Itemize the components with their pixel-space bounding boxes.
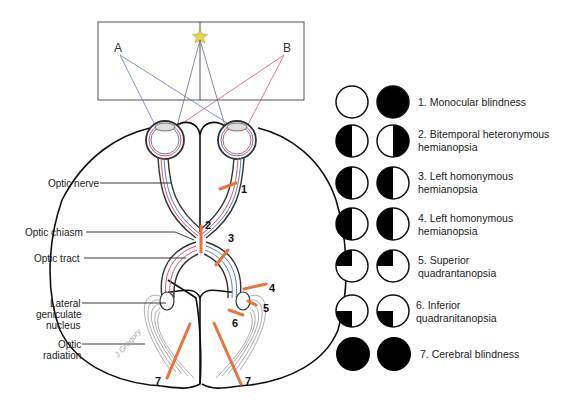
legend-label-6a: 6. Inferior [416, 299, 461, 311]
right-field-left-half [377, 167, 393, 199]
legend-label-5b: quadrantanopsia [418, 267, 496, 279]
legend-row-2: 2. Bitemporal heteronymous hemianopsia [336, 125, 549, 157]
label-optic-radiation-1: Optic [58, 339, 81, 350]
lesion-6 [229, 310, 243, 315]
label-optic-nerve: Optic nerve [48, 178, 100, 189]
left-field-left-half [336, 208, 352, 240]
label-lgn-2: geniculate [36, 309, 82, 320]
lesion-number-4: 4 [269, 282, 276, 294]
lesion-number-5: 5 [263, 302, 269, 314]
legend-label-2a: 2. Bitemporal heteronymous [418, 128, 549, 140]
lesion-4 [244, 284, 266, 289]
right-eye [218, 121, 256, 159]
legend-row-6: 6. Inferior quadranitanopsia [336, 295, 497, 327]
artist-signature: J Gregory [112, 326, 144, 360]
right-field-full [377, 337, 411, 371]
visual-field: A B [98, 22, 304, 160]
legend-label-5a: 5. Superior [418, 254, 470, 266]
visual-pathway-diagram: A B [0, 0, 569, 412]
lesion-number-3: 3 [228, 232, 234, 244]
lesion-number-7-left: 7 [155, 375, 161, 387]
left-field-left-half [336, 167, 352, 199]
legend-label-4b: hemianopsia [418, 225, 478, 237]
label-optic-radiation-2: radiation [43, 350, 81, 361]
legend-row-1: 1. Monocular blindness [336, 86, 526, 118]
left-field-clear [336, 86, 368, 118]
occipital-midline [168, 290, 232, 298]
point-a-label: A [114, 41, 122, 55]
lesion-number-2: 2 [205, 219, 211, 231]
right-field-lower-left-quadrant [377, 311, 393, 327]
brain-outline [50, 122, 346, 388]
left-field-upper-left-quadrant [336, 250, 352, 266]
left-lgn [160, 292, 174, 310]
legend: 1. Monocular blindness 2. Bitemporal het… [336, 86, 549, 371]
left-field-left-half [336, 125, 352, 157]
lesion-number-7-right: 7 [245, 375, 251, 387]
legend-label-4a: 4. Left homonymous [418, 212, 513, 224]
legend-label-1: 1. Monocular blindness [418, 96, 526, 108]
left-eye [146, 121, 184, 159]
legend-row-3: 3. Left homonymous hemianopsia [336, 167, 513, 199]
legend-label-3a: 3. Left homonymous [418, 170, 513, 182]
right-field-upper-left-quadrant [377, 250, 393, 266]
lesion-7b [214, 323, 241, 384]
legend-row-7: 7. Cerebral blindness [336, 337, 519, 371]
left-field-lower-left-quadrant [336, 311, 352, 327]
legend-row-5: 5. Superior quadrantanopsia [336, 250, 496, 282]
right-field-left-half [377, 208, 393, 240]
label-lgn-3: nucleus [46, 320, 80, 331]
legend-label-7: 7. Cerebral blindness [420, 348, 519, 360]
label-lgn-1: Lateral [50, 298, 81, 309]
legend-label-2b: hemianopsia [418, 141, 478, 153]
right-field-right-half [393, 125, 409, 157]
legend-row-4: 4. Left homonymous hemianopsia [336, 208, 513, 240]
point-b-label: B [283, 41, 291, 55]
lesion-number-6: 6 [232, 317, 238, 329]
label-optic-tract: Optic tract [34, 253, 80, 264]
label-optic-chiasm: Optic chiasm [25, 227, 83, 238]
legend-label-3b: hemianopsia [418, 183, 478, 195]
legend-label-6b: quadranitanopsia [416, 312, 497, 324]
right-field-full [377, 86, 409, 118]
lesion-number-1: 1 [241, 183, 247, 195]
left-field-full [336, 337, 370, 371]
right-hemisphere [202, 128, 346, 388]
